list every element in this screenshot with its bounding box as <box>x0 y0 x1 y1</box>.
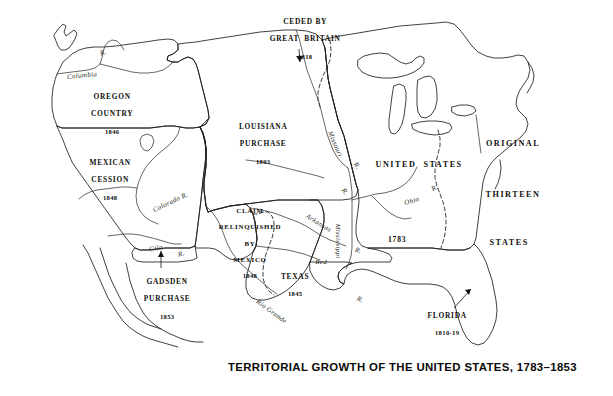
lake-superior <box>358 53 424 78</box>
baja-california-outline <box>83 245 178 347</box>
mexico-interior-outline <box>126 263 182 339</box>
puget-sound-inlet <box>54 24 77 50</box>
river-platte <box>246 160 324 178</box>
lake-erie <box>412 121 452 135</box>
map-title: TERRITORIAL GROWTH OF THE UNITED STATES,… <box>228 361 577 373</box>
river-tennessee <box>372 196 411 219</box>
region-gadsden-purchase <box>132 246 197 262</box>
river-mississippi <box>346 168 352 269</box>
region-oregon-country <box>52 39 209 128</box>
boundary-claim-texas <box>246 204 257 252</box>
dashed-border-texas-claim <box>253 212 274 295</box>
river-gila <box>108 234 181 244</box>
united-states-territorial-map: .ln{fill:none;stroke:#1f1f1d;stroke-widt… <box>0 0 613 396</box>
leader-florida-arrow <box>465 289 471 295</box>
region-louisiana-purchase <box>167 30 358 212</box>
boundary-louisiana-us1783 <box>325 48 358 190</box>
great-salt-lake <box>140 134 154 151</box>
mexico-east-outline <box>182 339 203 342</box>
river-columbia <box>57 40 124 74</box>
river-snake <box>100 61 174 73</box>
region-united-states-1783 <box>322 22 530 250</box>
river-arkansas <box>250 208 346 246</box>
gulf-coast-strip <box>310 262 352 290</box>
river-red <box>256 246 320 260</box>
mexico-west-coast-outline <box>100 248 161 329</box>
river-colorado-upper <box>79 187 137 199</box>
lake-huron <box>417 76 437 118</box>
lake-ontario <box>452 105 476 116</box>
dashed-border-northern-plains <box>318 40 331 107</box>
lake-michigan <box>389 84 406 134</box>
boundary-louisiana-texas <box>208 204 246 212</box>
river-ohio <box>352 167 417 200</box>
river-missouri <box>296 30 348 168</box>
map-figure: .ln{fill:none;stroke:#1f1f1d;stroke-widt… <box>0 0 613 396</box>
river-hudson <box>476 115 481 153</box>
leader-gadsden-arrow <box>158 251 164 257</box>
chesapeake-bay <box>495 160 501 189</box>
boundary-texas-gulf <box>310 200 324 262</box>
boundary-oregon-louisiana <box>200 118 209 127</box>
region-florida <box>338 244 497 345</box>
dashed-border-appalachian <box>435 130 446 248</box>
leader-ceded-arrow <box>296 56 303 62</box>
region-mexican-cession <box>57 126 206 250</box>
